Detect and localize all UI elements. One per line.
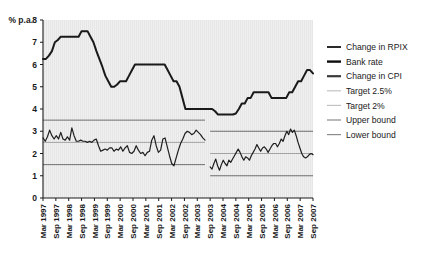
y-tick-label: 2 — [32, 149, 37, 159]
x-tick-label: Sep 2000 — [129, 203, 138, 238]
x-tick-label: Sep 2006 — [283, 203, 292, 238]
x-tick-label: Mar 2006 — [271, 203, 280, 238]
x-axis-ticks: Mar 1997Sep 1997Mar 1998Sep 1998Mar 1999… — [39, 198, 318, 239]
x-tick-label: Sep 2003 — [206, 203, 215, 238]
chart-legend: Change in RPIXBank rateChange in CPITarg… — [327, 42, 408, 140]
x-tick-label: Sep 1999 — [103, 203, 112, 238]
x-tick-label: Mar 2001 — [142, 203, 151, 238]
y-tick-label: 0 — [32, 193, 37, 203]
x-tick-label: Sep 1998 — [78, 203, 87, 238]
legend-label: Change in CPI — [346, 71, 402, 81]
legend-label: Change in RPIX — [346, 42, 408, 52]
x-tick-label: Mar 1998 — [65, 203, 74, 238]
legend-label: Lower bound — [346, 130, 396, 140]
y-axis-unit-label: % p.a. — [8, 15, 33, 25]
x-tick-label: Sep 2004 — [232, 203, 241, 238]
x-tick-label: Mar 1997 — [39, 203, 48, 238]
x-tick-label: Sep 1997 — [52, 203, 61, 238]
x-tick-label: Mar 1999 — [91, 203, 100, 238]
legend-label: Upper bound — [346, 115, 396, 125]
x-tick-label: Mar 2000 — [116, 203, 125, 238]
x-tick-label: Mar 2007 — [296, 203, 305, 238]
x-tick-label: Sep 2005 — [258, 203, 267, 238]
x-tick-label: Sep 2002 — [181, 203, 190, 238]
legend-label: Bank rate — [346, 57, 383, 67]
y-tick-label: 4 — [32, 104, 37, 114]
x-tick-label: Sep 2007 — [309, 203, 318, 238]
y-tick-label: 1 — [32, 171, 37, 181]
y-tick-label: 7 — [32, 37, 37, 47]
y-axis-ticks: 012345678 — [32, 15, 43, 203]
y-tick-label: 5 — [32, 82, 37, 92]
x-tick-label: Mar 2003 — [193, 203, 202, 238]
y-tick-label: 3 — [32, 126, 37, 136]
x-tick-label: Mar 2004 — [219, 203, 228, 238]
legend-label: Target 2% — [346, 101, 385, 111]
y-tick-label: 8 — [32, 15, 37, 25]
x-tick-label: Sep 2001 — [155, 203, 164, 238]
x-tick-label: Mar 2005 — [245, 203, 254, 238]
y-tick-label: 6 — [32, 60, 37, 70]
line-chart: 012345678 Mar 1997Sep 1997Mar 1998Sep 19… — [0, 0, 426, 269]
plot-background — [43, 20, 313, 198]
x-tick-label: Mar 2002 — [168, 203, 177, 238]
legend-label: Target 2.5% — [346, 86, 392, 96]
chart-container: 012345678 Mar 1997Sep 1997Mar 1998Sep 19… — [0, 0, 426, 269]
